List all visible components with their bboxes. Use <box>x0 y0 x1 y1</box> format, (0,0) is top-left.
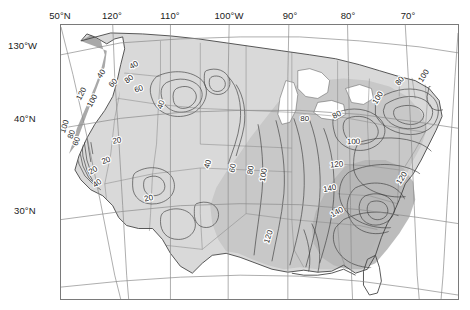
contour-label: 100 <box>85 92 99 108</box>
top-axis-label: 100°W <box>214 10 243 21</box>
contour-label: 40 <box>95 67 108 80</box>
contour-label: 60 <box>71 135 83 147</box>
top-axis-label: 110° <box>160 10 179 21</box>
contour-label: 80 <box>300 114 309 123</box>
top-axis-label: 70° <box>401 10 416 21</box>
top-axis-label: 50°N <box>49 10 71 21</box>
map-frame: 4040404080806060606012012010010040401001… <box>60 24 459 300</box>
contour-label: 100 <box>416 67 431 83</box>
contour-label: 120 <box>74 85 88 101</box>
left-axis-label: 40°N <box>14 113 36 124</box>
figure-root: 50°N 120° 110° 100°W 90° 80° 70° 130°W 4… <box>0 0 470 310</box>
map-svg: 4040404080806060606012012010010040401001… <box>61 25 458 299</box>
top-axis-label: 80° <box>341 10 356 21</box>
left-axis-label: 30°N <box>14 205 36 216</box>
top-axis-label: 120° <box>102 10 122 21</box>
top-axis-label: 90° <box>283 10 298 21</box>
contour-label: 100 <box>347 137 361 146</box>
left-axis-label: 130°W <box>8 40 37 51</box>
contour-label: 120 <box>330 159 344 169</box>
